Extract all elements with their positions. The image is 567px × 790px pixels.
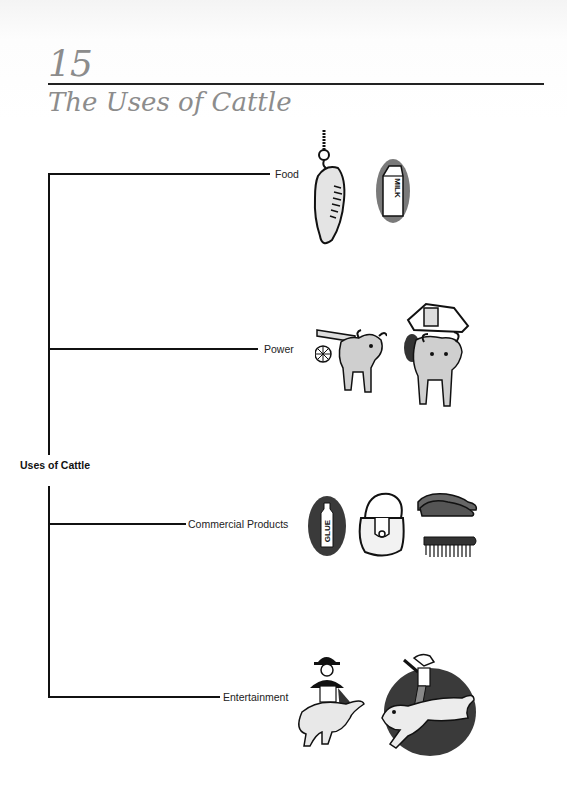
branch-label-food: Food: [275, 168, 299, 180]
glue-bottle-icon: GLUE: [307, 495, 347, 557]
branch-label-entertainment: Entertainment: [223, 691, 288, 703]
ox-cart-icon: [315, 318, 387, 400]
shoes-icon: [416, 488, 480, 518]
bull-rider-icon: [378, 652, 478, 758]
branch-label-commercial: Commercial Products: [188, 518, 288, 530]
milk-carton-text: MILK: [393, 178, 402, 198]
meat-cut-icon: [312, 128, 352, 250]
branch-line-food: [48, 173, 270, 175]
branch-label-power: Power: [264, 343, 294, 355]
title-rule: [48, 83, 544, 85]
handbag-icon: [355, 490, 409, 560]
chapter-title: The Uses of Cattle: [48, 86, 292, 118]
root-label: Uses of Cattle: [20, 459, 90, 471]
branch-line-power: [48, 348, 258, 350]
tree-trunk-lower: [48, 486, 50, 698]
branch-line-entertainment: [48, 696, 220, 698]
branch-line-commercial: [48, 523, 186, 525]
bullfighter-icon: [292, 652, 370, 748]
ox-load-icon: [402, 300, 470, 412]
milk-carton-icon: MILK: [375, 158, 411, 224]
chapter-number: 15: [48, 44, 92, 84]
tree-trunk-upper: [48, 173, 50, 455]
glue-bottle-text: GLUE: [323, 519, 332, 542]
brush-icon: [420, 535, 478, 561]
